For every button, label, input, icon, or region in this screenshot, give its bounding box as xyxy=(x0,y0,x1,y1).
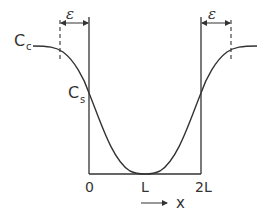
x-axis-label: x xyxy=(176,194,185,212)
c-c-label: C xyxy=(14,31,25,50)
diagram-canvas: ε ε C c C s 0 L 2L x xyxy=(0,0,275,215)
c-c-subscript: c xyxy=(26,41,32,52)
tick-label-0: 0 xyxy=(85,179,94,195)
tick-label-2L: 2L xyxy=(195,179,212,195)
concentration-curve xyxy=(33,46,257,174)
c-s-subscript: s xyxy=(80,94,85,105)
tick-label-L: L xyxy=(141,179,149,195)
right-epsilon-label: ε xyxy=(208,5,216,23)
c-s-label: C xyxy=(68,83,79,102)
left-epsilon-label: ε xyxy=(66,5,74,23)
